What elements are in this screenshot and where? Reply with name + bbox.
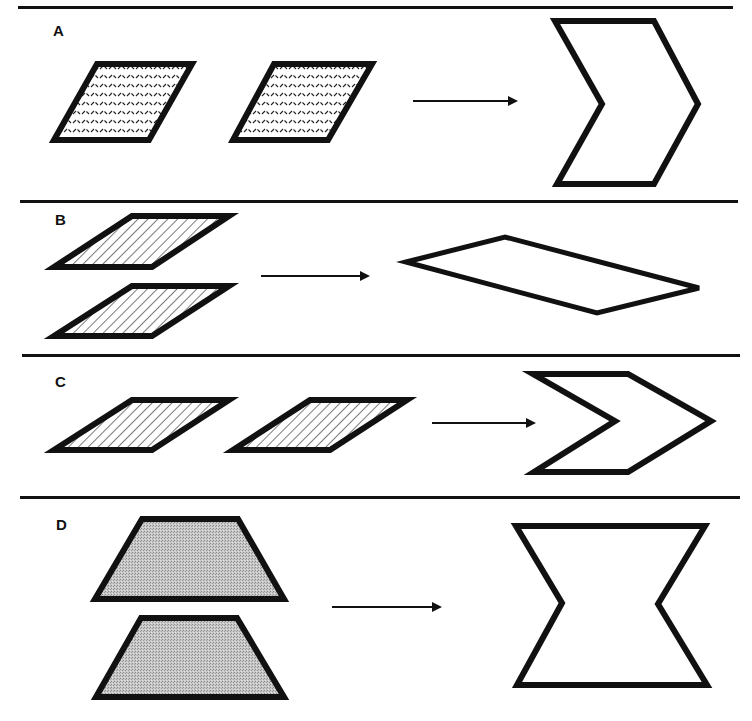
panel-a-input-rhombus-2 — [233, 64, 372, 140]
panel-c-input-parallelogram-1 — [54, 400, 229, 450]
panel-b — [54, 216, 699, 336]
panel-c-input-parallelogram-2 — [233, 400, 407, 450]
panel-b-input-parallelogram-1 — [54, 216, 229, 267]
panel-d-result-hourglass — [516, 526, 707, 685]
panel-d-input-trapezoid-2 — [96, 618, 284, 697]
panel-d — [95, 519, 707, 697]
panel-a-input-rhombus-1 — [54, 64, 192, 140]
panel-c — [54, 374, 711, 472]
panel-b-input-parallelogram-2 — [54, 286, 229, 336]
panel-b-result-parallelogram — [406, 237, 699, 313]
panel-d-input-trapezoid-1 — [95, 519, 284, 599]
panel-c-result-chevron — [533, 374, 711, 472]
panel-a — [54, 21, 698, 184]
figure-canvas — [0, 0, 752, 721]
panel-a-result-chevron — [555, 21, 698, 184]
